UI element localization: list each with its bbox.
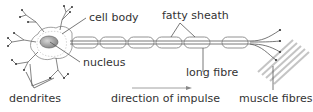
label-muscle-fibres: muscle fibres <box>239 92 313 105</box>
label-dendrites: dendrites <box>9 92 61 105</box>
label-cell-body: cell body <box>89 11 139 24</box>
nucleus <box>40 36 58 48</box>
label-fatty-sheath: fatty sheath <box>162 9 229 22</box>
muscle-fibres <box>258 40 309 84</box>
label-direction-of-impulse: direction of impulse <box>111 92 220 105</box>
neuron-diagram: cell body fatty sheath nucleus long fibr… <box>0 0 313 112</box>
neuron-svg: cell body fatty sheath nucleus long fibr… <box>0 0 313 112</box>
direction-arrow <box>132 86 192 90</box>
fatty-sheath <box>72 37 248 48</box>
label-nucleus: nucleus <box>83 56 126 69</box>
label-long-fibre: long fibre <box>186 66 238 79</box>
